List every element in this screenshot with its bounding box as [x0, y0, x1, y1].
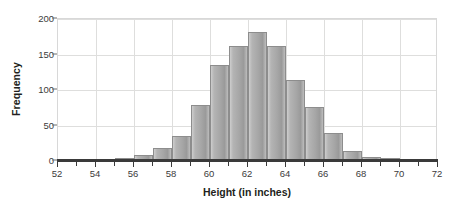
- x-tick-label: 66: [318, 168, 329, 179]
- x-tick-label: 56: [128, 168, 139, 179]
- histogram-chart: Frequency 050100150200 52545658606264666…: [0, 0, 456, 209]
- x-tick-major: [57, 162, 58, 167]
- y-axis-tick-labels: 050100150200: [26, 0, 54, 209]
- x-tick-minor: [190, 162, 191, 166]
- y-tick-label: 150: [26, 48, 54, 59]
- gridline-vertical: [134, 19, 135, 160]
- y-tick-label: 200: [26, 13, 54, 24]
- histogram-bar: [305, 107, 324, 160]
- x-tick-minor: [76, 162, 77, 166]
- x-tick-minor: [342, 162, 343, 166]
- gridline-horizontal: [58, 19, 436, 20]
- x-tick-minor: [152, 162, 153, 166]
- x-tick-label: 60: [204, 168, 215, 179]
- y-tick-label: 100: [26, 84, 54, 95]
- histogram-bar: [210, 65, 229, 160]
- x-tick-major: [171, 162, 172, 167]
- x-tick-minor: [228, 162, 229, 166]
- x-tick-major: [437, 162, 438, 167]
- gridline-vertical: [96, 19, 97, 160]
- histogram-bar: [248, 32, 267, 160]
- gridline-vertical: [362, 19, 363, 160]
- x-tick-major: [209, 162, 210, 167]
- y-tick-label: 50: [26, 119, 54, 130]
- x-tick-label: 52: [52, 168, 63, 179]
- x-tick-minor: [380, 162, 381, 166]
- histogram-bar: [229, 46, 248, 160]
- plot-area: [57, 18, 437, 160]
- x-tick-label: 58: [166, 168, 177, 179]
- histogram-bar: [172, 136, 191, 160]
- x-tick-major: [399, 162, 400, 167]
- x-tick-major: [323, 162, 324, 167]
- x-tick-label: 68: [356, 168, 367, 179]
- histogram-bar: [267, 46, 286, 160]
- x-tick-major: [95, 162, 96, 167]
- gridline-vertical: [400, 19, 401, 160]
- histogram-bar: [324, 133, 343, 160]
- x-tick-label: 64: [280, 168, 291, 179]
- x-tick-label: 70: [394, 168, 405, 179]
- x-tick-major: [361, 162, 362, 167]
- y-tick-label: 0: [26, 155, 54, 166]
- x-tick-major: [133, 162, 134, 167]
- x-tick-minor: [418, 162, 419, 166]
- y-axis-title: Frequency: [6, 18, 26, 160]
- x-tick-minor: [114, 162, 115, 166]
- x-tick-label: 54: [90, 168, 101, 179]
- histogram-bar: [191, 105, 210, 160]
- x-tick-major: [285, 162, 286, 167]
- histogram-bar: [286, 80, 305, 160]
- x-axis-title: Height (in inches): [57, 186, 437, 198]
- x-tick-major: [247, 162, 248, 167]
- y-axis-title-text: Frequency: [10, 62, 22, 116]
- x-tick-label: 72: [432, 168, 443, 179]
- x-tick-label: 62: [242, 168, 253, 179]
- x-tick-minor: [304, 162, 305, 166]
- x-tick-minor: [266, 162, 267, 166]
